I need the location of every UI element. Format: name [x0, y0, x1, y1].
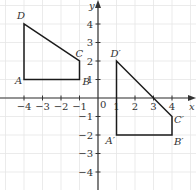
y-tick-label: 2 — [87, 56, 93, 67]
vertex-label: B — [82, 76, 90, 87]
y-axis-arrow-icon — [95, 0, 101, 8]
vertex-label: D′ — [110, 48, 122, 59]
origin-label: 0 — [100, 99, 106, 110]
coordinate-plane: −4−3−2−112344321−1−2−3−40xy ABCDA′B′C′D′ — [0, 0, 196, 190]
y-tick-label: −3 — [78, 148, 93, 159]
vertex-labels: ABCDA′B′C′D′ — [14, 10, 185, 147]
x-tick-label: 4 — [169, 101, 175, 112]
vertex-label: C′ — [174, 114, 185, 125]
vertex-label: A′ — [105, 135, 116, 146]
x-tick-label: 2 — [132, 101, 138, 112]
y-tick-label: −1 — [78, 111, 93, 122]
y-tick-label: −4 — [78, 167, 93, 178]
y-tick-label: 4 — [87, 19, 93, 30]
vertex-label: D — [16, 10, 25, 21]
y-tick-label: −2 — [78, 130, 93, 141]
vertex-label: A — [14, 75, 22, 86]
tick-labels: −4−3−2−112344321−1−2−3−40xy — [17, 0, 195, 178]
x-tick-label: 3 — [150, 101, 156, 112]
y-axis-label: y — [88, 0, 95, 11]
x-tick-label: −2 — [54, 101, 69, 112]
shape-abcd — [24, 24, 80, 80]
x-axis-label: x — [189, 101, 195, 112]
y-tick-label: 3 — [87, 37, 93, 48]
vertex-label: B′ — [173, 136, 184, 147]
vertex-label: C — [76, 48, 84, 59]
x-tick-label: −4 — [17, 101, 32, 112]
x-tick-label: −3 — [35, 101, 50, 112]
